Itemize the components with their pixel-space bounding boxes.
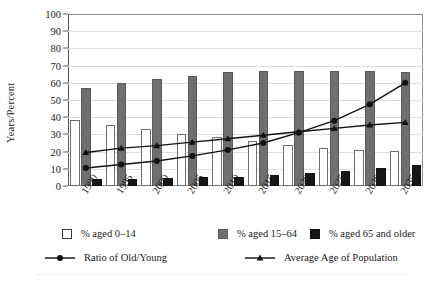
legend-line-ratio-old-young: [45, 253, 75, 263]
legend-item: % aged 15–64: [218, 228, 297, 239]
legend-label: Ratio of Old/Young: [84, 252, 167, 263]
legend-row-categories: % aged 0–14% aged 15–64% aged 65 and old…: [0, 228, 440, 250]
legend-swatch-aged-15-64: [218, 229, 228, 239]
bar-group: [210, 14, 246, 186]
legend-label: % aged 0–14: [81, 228, 136, 239]
bar-young: [106, 125, 116, 186]
bar-group: [68, 14, 104, 186]
bar-work: [81, 88, 91, 186]
chart-legend: % aged 0–14% aged 15–64% aged 65 and old…: [0, 228, 440, 280]
bar-young: [70, 120, 80, 186]
bar-group: [281, 14, 317, 186]
bar-group: [317, 14, 353, 186]
bar-work: [117, 83, 127, 186]
legend-item: Ratio of Old/Young: [45, 252, 167, 263]
legend-line-average-age: [245, 253, 275, 263]
bar-young: [177, 134, 187, 186]
plot-area: 0102030405060708090100: [68, 14, 423, 186]
bar-group: [388, 14, 424, 186]
y-tick-label: 0: [56, 181, 61, 192]
chart-page: Years/Percent 0102030405060708090100 199…: [0, 0, 440, 282]
legend-item: % aged 65 and older: [310, 228, 415, 239]
bar-work: [259, 71, 269, 186]
y-tick-label: 20: [51, 146, 62, 157]
y-tick-label: 100: [45, 9, 61, 20]
y-tick-label: 30: [51, 129, 62, 140]
bar-work: [152, 79, 162, 186]
y-tick-label: 60: [51, 77, 62, 88]
bar-work: [401, 72, 411, 186]
legend-swatch-aged-65-older: [310, 229, 320, 239]
bar-group: [246, 14, 282, 186]
bar-work: [188, 76, 198, 186]
y-tick-label: 80: [51, 43, 62, 54]
bar-young: [283, 145, 293, 186]
bar-group: [175, 14, 211, 186]
y-tick-label: 50: [51, 95, 62, 106]
bar-young: [212, 137, 222, 186]
legend-row-lines: Ratio of Old/YoungAverage Age of Populat…: [0, 252, 440, 274]
bar-young: [248, 141, 258, 186]
bar-group: [139, 14, 175, 186]
bar-group: [352, 14, 388, 186]
bar-work: [223, 72, 233, 186]
legend-label: % aged 15–64: [237, 228, 297, 239]
y-axis-title: Years/Percent: [2, 58, 18, 168]
bar-young: [319, 148, 329, 186]
legend-item: Average Age of Population: [245, 252, 398, 263]
legend-label: Average Age of Population: [284, 252, 398, 263]
legend-label: % aged 65 and older: [329, 228, 415, 239]
y-tick-label: 40: [51, 112, 62, 123]
bar-work: [365, 71, 375, 186]
bar-group: [104, 14, 140, 186]
y-tick-label: 70: [51, 60, 62, 71]
legend-swatch-aged-0-14: [62, 229, 72, 239]
bar-work: [294, 71, 304, 186]
bar-young: [354, 150, 364, 186]
bar-work: [330, 71, 340, 186]
bar-young: [141, 129, 151, 186]
y-tick-label: 10: [51, 163, 62, 174]
legend-item: % aged 0–14: [62, 228, 136, 239]
bottom-divider: [36, 274, 408, 275]
bar-young: [390, 151, 400, 186]
y-tick-label: 90: [51, 26, 62, 37]
